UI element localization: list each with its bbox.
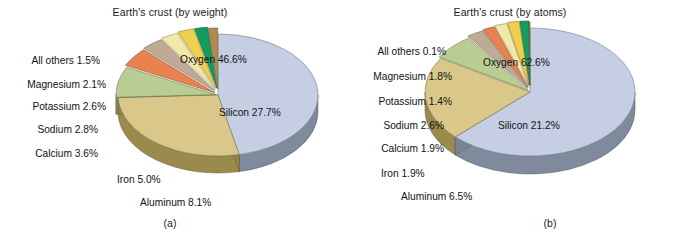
pie-graphic-b bbox=[340, 0, 680, 237]
calcium-label-a: Calcium 3.6% bbox=[0, 148, 98, 159]
panel-label-a: (a) bbox=[20, 217, 320, 229]
silicon-inner-label-a: Silicon 27.7% bbox=[219, 107, 281, 118]
sodium-label-a: Sodium 2.8% bbox=[0, 124, 98, 135]
figure-root: Earth's crust (by weight) All others 1.5… bbox=[0, 0, 680, 237]
calcium-label-b: Calcium 1.9% bbox=[340, 143, 444, 154]
pie-chart-panel-b: Earth's crust (by atoms) All others 0.1%… bbox=[340, 0, 680, 237]
iron-label-b: Iron 1.9% bbox=[381, 168, 425, 179]
oxygen-inner-label-b: Oxygen 62.6% bbox=[483, 57, 550, 68]
silicon-inner-label-b: Silicon 21.2% bbox=[498, 120, 560, 131]
sodium-label-b: Sodium 2.6% bbox=[340, 120, 444, 131]
iron-label-a: Iron 5.0% bbox=[117, 174, 161, 185]
aluminum-label-b: Aluminum 6.5% bbox=[401, 191, 472, 202]
all-others-label-a: All others 1.5% bbox=[0, 55, 100, 66]
potassium-label-b: Potassium 1.4% bbox=[340, 96, 452, 107]
all-others-label-b: All others 0.1% bbox=[340, 46, 446, 57]
magnesium-label-a: Magnesium 2.1% bbox=[0, 79, 106, 90]
oxygen-inner-label-a: Oxygen 46.6% bbox=[180, 54, 247, 65]
potassium-label-a: Potassium 2.6% bbox=[0, 101, 106, 112]
aluminum-label-a: Aluminum 8.1% bbox=[140, 197, 211, 208]
magnesium-label-b: Magnesium 1.8% bbox=[340, 71, 452, 82]
panel-label-b: (b) bbox=[400, 217, 680, 229]
pie-chart-panel-a: Earth's crust (by weight) All others 1.5… bbox=[0, 0, 340, 237]
